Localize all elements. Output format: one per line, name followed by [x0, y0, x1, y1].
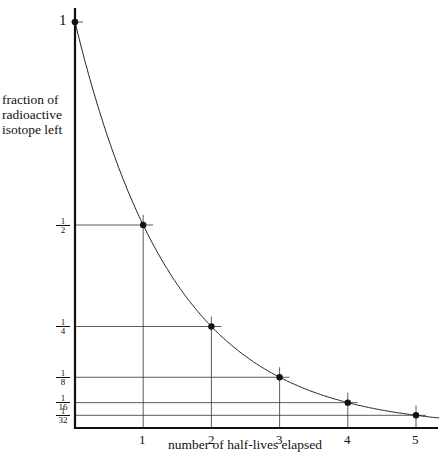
- y-tick-1: 1: [59, 12, 67, 29]
- x-axis-label: number of half-lives elapsed: [168, 437, 322, 453]
- y-label-line-1: fraction of: [2, 92, 72, 107]
- y-tick-half: 12: [56, 217, 70, 234]
- guide-lines: [71, 22, 426, 428]
- x-tick-1: 1: [139, 432, 146, 448]
- y-axis-label: fraction of radioactive isotope left: [2, 92, 72, 137]
- x-tick-5: 5: [412, 432, 419, 448]
- y-tick-quarter: 14: [56, 318, 70, 335]
- y-label-line-3: isotope left: [2, 122, 72, 137]
- decay-curve: [75, 22, 439, 418]
- y-label-line-2: radioactive: [2, 107, 72, 122]
- y-tick-thirtysecond: 132: [56, 407, 70, 424]
- x-tick-4: 4: [344, 432, 351, 448]
- y-tick-eighth: 18: [56, 369, 70, 386]
- data-points: [72, 19, 419, 419]
